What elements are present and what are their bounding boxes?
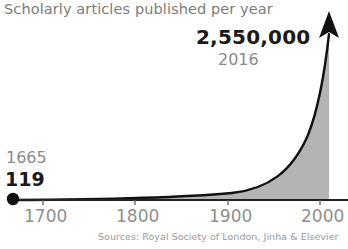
start-point-dot-icon: [7, 193, 19, 205]
x-tick-label-1900: 1900: [209, 206, 252, 226]
scholarly-articles-chart: Scholarly articles published per year 2,…: [0, 0, 348, 249]
x-tick-label-1800: 1800: [116, 206, 159, 226]
area-fill: [13, 34, 329, 200]
start-point-year-label: 1665: [6, 150, 47, 166]
start-point-value-label: 119: [5, 170, 45, 189]
page-title: Scholarly articles published per year: [4, 2, 273, 17]
x-tick-label-1700: 1700: [24, 206, 67, 226]
end-point-value-label: 2,550,000: [196, 27, 310, 47]
source-note: Sources: Royal Society of London, Jinha …: [98, 232, 339, 242]
x-tick-label-2000: 2000: [301, 206, 344, 226]
end-point-year-label: 2016: [218, 52, 259, 68]
